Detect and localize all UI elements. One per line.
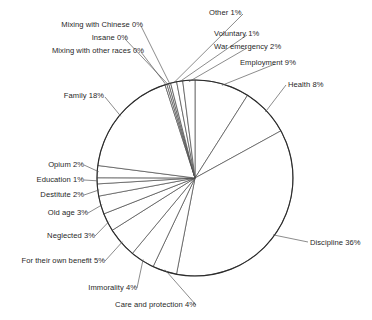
pie-label-education: Education 1% bbox=[37, 175, 84, 184]
pie-leader-line bbox=[105, 242, 122, 261]
pie-leader-line bbox=[105, 97, 121, 116]
pie-chart: Other 1% Voluntary 1% War emergency 2% E… bbox=[0, 0, 372, 320]
pie-label-discipline: Discipline 36% bbox=[310, 238, 361, 247]
pie-leader-line bbox=[84, 190, 99, 195]
pie-label-old-age: Old age 3% bbox=[48, 208, 88, 217]
pie-label-health: Health 8% bbox=[288, 80, 324, 89]
pie-label-mixing-with-chinese: Mixing with Chinese 0% bbox=[61, 20, 143, 29]
pie-label-family: Family 18% bbox=[64, 91, 104, 100]
pie-leader-line bbox=[265, 85, 286, 112]
pie-leader-line bbox=[222, 64, 275, 85]
pie-leader-line bbox=[84, 165, 99, 172]
pie-leader-line bbox=[84, 180, 98, 181]
pie-label-voluntary: Voluntary 1% bbox=[214, 29, 259, 38]
pie-label-mixing-with-other-races: Mixing with other races 0% bbox=[52, 46, 144, 55]
pie-label-opium: Opium 2% bbox=[48, 160, 84, 169]
pie-label-insane: Insane 0% bbox=[92, 33, 128, 42]
pie-leader-line bbox=[137, 259, 143, 288]
pie-label-immorality: Immorality 4% bbox=[88, 283, 137, 292]
pie-leader-line bbox=[88, 205, 102, 213]
pie-leader-line bbox=[273, 235, 308, 242]
pie-slice-group bbox=[97, 80, 293, 276]
pie-leader-line bbox=[189, 48, 247, 82]
pie-label-other: Other 1% bbox=[209, 8, 241, 17]
pie-label-destitute: Destitute 2% bbox=[40, 190, 84, 199]
pie-leader-line bbox=[95, 222, 109, 236]
pie-label-for-their-own-benefit: For their own benefit 5% bbox=[21, 256, 105, 265]
pie-label-neglected: Neglected 3% bbox=[47, 231, 95, 240]
pie-label-care-and-protection: Care and protection 4% bbox=[115, 300, 196, 309]
pie-leader-line bbox=[141, 26, 170, 84]
pie-label-war-emergency: War emergency 2% bbox=[214, 42, 281, 51]
pie-label-employment: Employment 9% bbox=[240, 58, 296, 67]
